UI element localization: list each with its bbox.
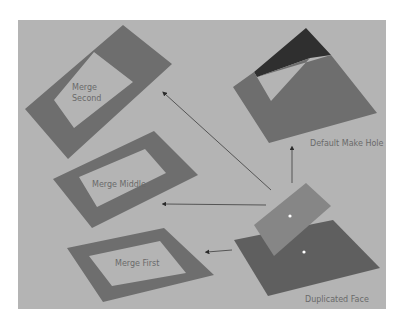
merge-second-label-2: Second	[72, 94, 101, 103]
merge-first-face: Merge First	[67, 228, 214, 302]
duplicated-face: Duplicated Face	[234, 183, 380, 304]
base-face-center-dot	[302, 250, 305, 253]
default-make-hole-face: Default Make Hole	[233, 28, 384, 148]
merge-second-label-1: Merge	[72, 83, 97, 92]
lifted-face-center-dot	[288, 214, 291, 217]
arrow-to-merge-first	[207, 250, 232, 252]
mesh-operations-diagram: Merge Second Merge Middle Merge First De…	[0, 0, 408, 324]
default-make-hole-label: Default Make Hole	[310, 139, 384, 148]
arrow-to-merge-middle	[164, 204, 266, 205]
duplicated-face-label: Duplicated Face	[305, 295, 369, 304]
merge-middle-label: Merge Middle	[92, 180, 146, 189]
merge-first-label: Merge First	[115, 259, 159, 268]
